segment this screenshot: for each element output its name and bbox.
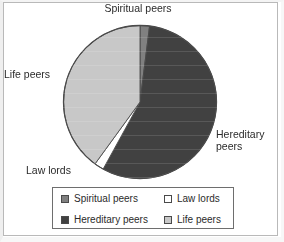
pie-chart-figure: Spiritual peers Life peers Law lords Her…	[0, 0, 284, 242]
legend-item-hereditary-peers: Hereditary peers	[53, 214, 156, 225]
legend-item-law-lords: Law lords	[156, 193, 235, 204]
legend-label: Life peers	[177, 214, 221, 225]
label-spiritual-peers: Spiritual peers	[78, 2, 198, 14]
pie-graphic	[62, 24, 218, 180]
legend-item-life-peers: Life peers	[156, 214, 235, 225]
legend-label: Hereditary peers	[74, 214, 148, 225]
label-hereditary-peers: Hereditary peers	[216, 128, 280, 152]
legend-label: Law lords	[177, 193, 220, 204]
label-law-lords: Law lords	[26, 164, 96, 176]
legend-swatch-icon	[164, 195, 172, 203]
chart-legend: Spiritual peers Law lords Hereditary pee…	[52, 187, 234, 229]
pie-slices	[63, 25, 216, 178]
legend-label: Spiritual peers	[74, 193, 138, 204]
pie-svg	[62, 24, 218, 180]
legend-swatch-icon	[164, 216, 172, 224]
label-life-peers: Life peers	[4, 68, 66, 80]
legend-item-spiritual-peers: Spiritual peers	[53, 193, 156, 204]
legend-swatch-icon	[61, 216, 69, 224]
legend-swatch-icon	[61, 195, 69, 203]
